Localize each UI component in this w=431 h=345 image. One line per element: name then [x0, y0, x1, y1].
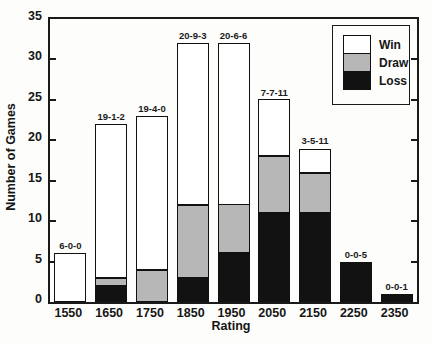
- bar-value-label: 0-0-1: [367, 281, 427, 292]
- bar-segment-draw-1650: [95, 278, 127, 286]
- bar-segment-loss-2050: [258, 213, 290, 302]
- x-tick-label: 2350: [369, 306, 421, 320]
- legend-swatch-loss: [343, 71, 371, 90]
- y-tick-right: [411, 58, 417, 60]
- legend: WinDrawLoss: [332, 25, 410, 105]
- y-tick-label: 20: [16, 130, 42, 144]
- bar-segment-win-1550: [54, 253, 86, 302]
- bar-segment-draw-1950: [218, 204, 250, 253]
- bar-segment-draw-1850: [177, 205, 209, 278]
- y-tick-label: 25: [16, 90, 42, 104]
- y-tick-left: [50, 180, 56, 182]
- y-tick-label: 35: [16, 9, 42, 23]
- legend-swatch-draw: [343, 53, 371, 72]
- bar-segment-draw-1750: [136, 270, 168, 302]
- bar-value-label: 20-6-6: [204, 30, 264, 41]
- legend-label: Loss: [379, 74, 407, 88]
- y-tick-left: [50, 99, 56, 101]
- bar-segment-win-2150: [299, 149, 331, 173]
- y-tick-label: 5: [16, 252, 42, 266]
- bar-segment-loss-2250: [340, 262, 372, 302]
- bar-segment-win-1750: [136, 116, 168, 270]
- chart-figure: 6-0-019-1-219-4-020-9-320-6-67-7-113-5-1…: [0, 0, 431, 345]
- legend-swatch-win: [343, 35, 371, 54]
- y-tick-right: [411, 139, 417, 141]
- y-tick-right: [411, 261, 417, 263]
- y-tick-right: [411, 220, 417, 222]
- y-tick-right: [411, 99, 417, 101]
- legend-entry-win: Win: [343, 35, 409, 54]
- legend-entry-loss: Loss: [343, 71, 409, 90]
- legend-label: Draw: [379, 56, 408, 70]
- bar-value-label: 7-7-11: [244, 87, 304, 98]
- bar-segment-draw-2050: [258, 156, 290, 213]
- bar-segment-loss-2350: [381, 294, 413, 302]
- legend-label: Win: [379, 38, 401, 52]
- bar-segment-loss-1850: [177, 278, 209, 302]
- bar-value-label: 3-5-11: [285, 135, 345, 146]
- bar-value-label: 0-0-5: [326, 249, 386, 260]
- y-tick-right: [411, 180, 417, 182]
- x-axis-title: Rating: [181, 319, 281, 333]
- bar-segment-loss-2150: [299, 213, 331, 302]
- bar-segment-draw-2150: [299, 173, 331, 213]
- bar-segment-win-1650: [95, 124, 127, 278]
- y-tick-label: 0: [16, 292, 42, 306]
- y-tick-label: 15: [16, 171, 42, 185]
- y-tick-label: 30: [16, 49, 42, 63]
- y-tick-label: 10: [16, 211, 42, 225]
- bar-segment-loss-1650: [95, 286, 127, 302]
- legend-entry-draw: Draw: [343, 53, 409, 72]
- bar-value-label: 6-0-0: [40, 240, 100, 251]
- y-tick-left: [50, 220, 56, 222]
- bar-segment-win-1850: [177, 43, 209, 205]
- bar-segment-win-2050: [258, 99, 290, 156]
- bar-value-label: 19-4-0: [122, 103, 182, 114]
- bar-segment-win-1950: [218, 43, 250, 205]
- y-tick-left: [50, 139, 56, 141]
- bar-segment-loss-1950: [218, 253, 250, 302]
- y-tick-left: [50, 58, 56, 60]
